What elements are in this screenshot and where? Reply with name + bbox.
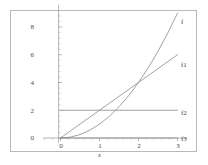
- y-tick-label-4: 4: [24, 80, 34, 87]
- x-axis-title: x: [98, 151, 101, 158]
- x-tick-label-1: 1: [95, 143, 105, 150]
- y-tick-label-0: 0: [24, 135, 34, 142]
- x-tick-label-0: 0: [56, 143, 66, 150]
- series-label-f1: f1: [181, 62, 187, 69]
- series-label-f2: f2: [181, 110, 187, 117]
- y-tick-label-2: 2: [24, 108, 34, 115]
- y-tick-label-6: 6: [24, 52, 34, 59]
- curves-group: [61, 13, 178, 138]
- y-tick-label-8: 8: [24, 24, 34, 31]
- x-tick-label-2: 2: [134, 143, 144, 150]
- axes-group: [43, 5, 187, 143]
- series-label-f3: f3: [181, 136, 187, 143]
- x-tick-label-3: 3: [173, 143, 183, 150]
- curve-f: [61, 13, 178, 138]
- figure-container: 0 2 4 6 8 0 1 2 3 x f f1 f2 f3: [0, 0, 208, 165]
- series-label-f: f: [181, 19, 183, 26]
- curve-f1: [61, 55, 178, 138]
